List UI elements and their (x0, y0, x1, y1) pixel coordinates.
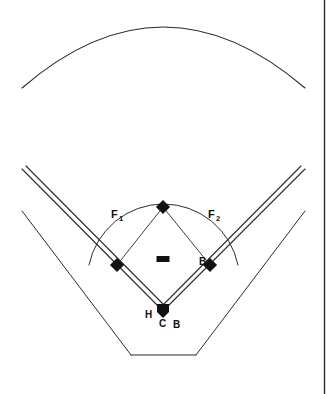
label-fair-territory-left-letter: F (111, 208, 118, 220)
field-diagram-canvas: F 1 F 2 B H C B (0, 0, 331, 394)
label-fair-territory-right-letter: F (208, 208, 215, 220)
label-fair-territory-right-subscript: 2 (216, 214, 220, 223)
label-catcher: C (159, 318, 166, 329)
label-batter: B (173, 319, 180, 330)
label-base-right: B (199, 256, 206, 267)
label-home: H (145, 309, 152, 320)
pitchers-rubber-marker (157, 256, 170, 262)
label-fair-territory-left-subscript: 1 (119, 214, 123, 223)
baseball-field-figure: F 1 F 2 B H C B (0, 0, 331, 394)
